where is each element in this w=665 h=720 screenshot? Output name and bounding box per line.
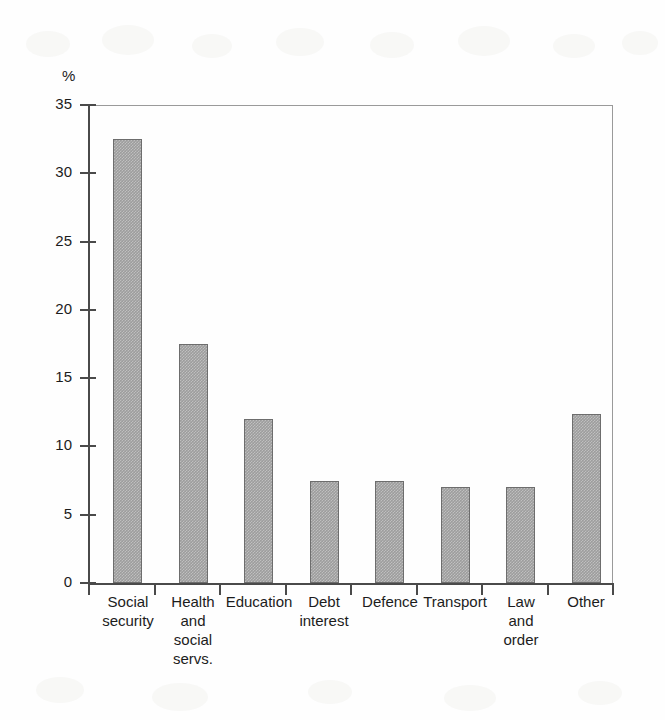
y-axis-tick-mark [80,309,96,311]
y-axis-tick-mark [80,172,96,174]
y-axis-tick-label: 15 [32,368,72,385]
y-axis-tick-mark [80,514,96,516]
bar [244,419,273,583]
category-label-line: interest [276,611,372,630]
bar [506,487,535,583]
y-axis-unit-label: % [62,67,75,84]
x-axis-category-label: Other [538,592,634,611]
category-label-line: and [145,611,241,630]
y-axis-tick-label: 10 [32,436,72,453]
y-axis-tick-label: 25 [32,232,72,249]
category-label-line: servs. [145,649,241,668]
y-axis-tick-mark [80,241,96,243]
y-axis-line [88,105,90,584]
bar [375,481,404,583]
category-label-line: order [473,630,569,649]
category-label-line: Other [538,592,634,611]
bar-chart-figure: % 05101520253035 SocialsecurityHealthand… [0,0,665,720]
bar [113,139,142,583]
bar [179,344,208,583]
y-axis-tick-mark [80,104,96,106]
category-label-line: and [473,611,569,630]
y-axis-tick-label: 30 [32,163,72,180]
bar [572,414,601,583]
y-axis-tick-mark [80,445,96,447]
y-axis-tick-mark [80,377,96,379]
y-axis-tick-label: 20 [32,300,72,317]
bar [441,487,470,583]
y-axis-tick-label: 35 [32,95,72,112]
y-axis-tick-label: 5 [32,505,72,522]
bar [310,481,339,583]
category-label-line: social [145,630,241,649]
y-axis-tick-label: 0 [32,573,72,590]
